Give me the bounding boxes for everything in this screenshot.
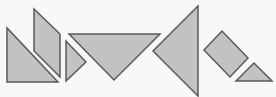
tangram-diagram (0, 0, 276, 97)
